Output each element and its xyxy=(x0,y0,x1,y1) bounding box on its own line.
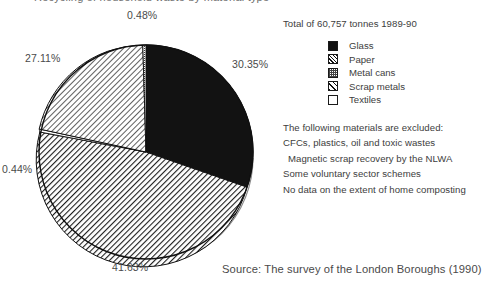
legend-item-paper: Paper xyxy=(328,53,461,67)
excluded-materials-note: The following materials are excluded: CF… xyxy=(283,120,461,198)
empty-white-swatch-icon xyxy=(328,95,338,105)
excluded-line: Magnetic scrap recovery by the NLWA xyxy=(283,151,461,167)
excluded-heading: The following materials are excluded: xyxy=(283,120,461,136)
slice-label-metal-cans: 0.48% xyxy=(127,9,157,21)
legend-item-label: Scrap metals xyxy=(349,81,405,92)
slice-label-scrap-metals: 41.63% xyxy=(112,261,148,273)
sparse-hatch-swatch-icon xyxy=(328,81,338,91)
page-title: Recycling of household waste by material… xyxy=(34,0,269,3)
excluded-line: Some voluntary sector schemes xyxy=(283,166,461,182)
legend-panel: Total of 60,757 tonnes 1989-90 Glass Pap… xyxy=(283,18,461,197)
slice-label-textiles: 0.44% xyxy=(2,163,32,175)
legend-item-textiles: Textiles xyxy=(328,93,461,107)
legend-list: Glass Paper Metal cans Scrap metals Text… xyxy=(283,39,461,107)
legend-item-label: Paper xyxy=(349,54,375,65)
source-note: Source: The survey of the London Borough… xyxy=(222,263,482,275)
legend-item-label: Metal cans xyxy=(349,67,395,78)
legend-item-scrap-metals: Scrap metals xyxy=(328,80,461,94)
slice-label-paper: 27.11% xyxy=(25,52,60,64)
excluded-line: CFCs, plastics, oil and toxic wastes xyxy=(283,135,461,151)
slice-label-glass: 30.35% xyxy=(232,58,268,70)
solid-black-swatch-icon xyxy=(328,41,338,51)
legend-item-metal-cans: Metal cans xyxy=(328,66,461,80)
stipple-swatch-icon xyxy=(328,68,338,78)
legend-item-label: Glass xyxy=(349,40,374,51)
legend-item-glass: Glass xyxy=(328,39,461,53)
legend-total-label: Total of 60,757 tonnes 1989-90 xyxy=(283,18,461,29)
legend-item-label: Textiles xyxy=(349,94,381,105)
excluded-line: No data on the extent of home composting xyxy=(283,182,461,198)
dense-hatch-swatch-icon xyxy=(328,54,338,64)
